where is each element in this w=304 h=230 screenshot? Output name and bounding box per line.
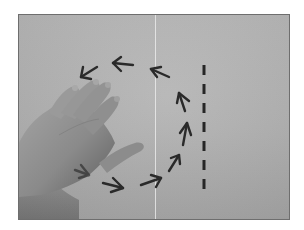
arrow-up-right-icon: [169, 155, 180, 171]
photograph: [18, 14, 290, 220]
arrow-up-right-icon: [141, 175, 161, 187]
arrow-down-left-icon: [81, 67, 97, 79]
drawing-layer: [19, 15, 290, 220]
arrow-up-icon: [180, 123, 191, 145]
arrow-right-icon: [103, 178, 123, 192]
arrow-left-icon: [113, 57, 133, 71]
arrow-up-icon: [177, 93, 189, 111]
arrow-up-left-icon: [151, 67, 169, 77]
hand: [19, 79, 144, 220]
